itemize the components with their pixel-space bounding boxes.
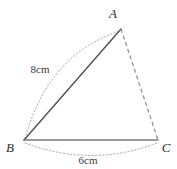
triangle-diagram-svg: A B C 8cm 6cm: [0, 0, 177, 169]
vertex-label-c: C: [162, 140, 171, 155]
geometry-figure: A B C 8cm 6cm: [0, 0, 177, 169]
measure-label-6cm: 6cm: [79, 154, 98, 166]
measure-label-8cm: 8cm: [31, 63, 50, 75]
vertex-label-a: A: [108, 6, 117, 21]
triangle-side-ba: [24, 29, 121, 140]
vertex-label-b: B: [6, 140, 14, 155]
triangle-side-ac: [121, 29, 158, 140]
